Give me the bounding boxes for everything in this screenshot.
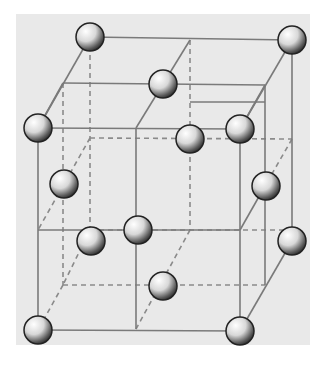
edge [38, 128, 240, 129]
atom-sphere [278, 26, 306, 54]
atom-sphere [76, 23, 104, 51]
atom-sphere [278, 227, 306, 255]
lattice-diagram [0, 0, 326, 374]
atom-sphere [149, 272, 177, 300]
atom-sphere [124, 216, 152, 244]
atom-sphere [50, 170, 78, 198]
atom-sphere [226, 115, 254, 143]
edge [90, 37, 292, 40]
atom-sphere [77, 227, 105, 255]
atom-sphere [149, 70, 177, 98]
atom-sphere [226, 317, 254, 345]
atom-sphere [24, 316, 52, 344]
atom-spheres [24, 23, 306, 345]
atom-sphere [176, 125, 204, 153]
edge [240, 241, 292, 331]
atom-sphere [24, 114, 52, 142]
edge [38, 330, 240, 331]
atom-sphere [252, 172, 280, 200]
